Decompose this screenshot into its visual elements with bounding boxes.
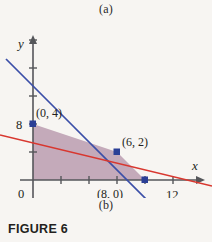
caption-a: (a) <box>0 2 212 17</box>
label-point-8-0: (8, 0) <box>97 187 123 198</box>
feasible-region-shading <box>33 124 145 180</box>
y-tick-label-8: 8 <box>16 118 22 132</box>
data-point-8-0 <box>142 177 149 184</box>
label-point-0-4: (0, 4) <box>36 106 62 120</box>
data-point-0-4 <box>30 121 37 128</box>
figure-label: FIGURE 6 <box>8 222 68 236</box>
label-point-6-2: (6, 2) <box>122 135 148 149</box>
origin-label: 0 <box>18 187 24 198</box>
coordinate-plot: y x 8 0 12 (0, 4) (6, 2) (8, 0) <box>0 18 212 198</box>
x-axis-label: x <box>191 158 198 173</box>
y-axis-label: y <box>16 36 24 51</box>
caption-b: (b) <box>0 198 212 213</box>
figure-6: (a) <box>0 0 212 242</box>
data-point-6-2 <box>114 149 121 156</box>
x-tick-label-12: 12 <box>166 188 179 198</box>
